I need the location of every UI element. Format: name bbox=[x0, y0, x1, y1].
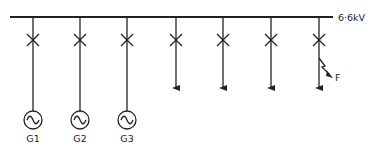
feeder-g2: G2 bbox=[71, 17, 89, 144]
generator-icon bbox=[24, 111, 42, 129]
fault-label: F bbox=[335, 72, 340, 83]
generator-icon bbox=[118, 111, 136, 129]
feeder-load-1 bbox=[170, 17, 182, 88]
generator-label: G2 bbox=[73, 133, 86, 144]
single-line-diagram: 6·6kV G1 G2 bbox=[0, 0, 378, 150]
feeder-g3: G3 bbox=[118, 17, 136, 144]
generator-icon bbox=[71, 111, 89, 129]
feeder-load-2 bbox=[217, 17, 229, 88]
feeder-load-4-faulted: F bbox=[313, 17, 340, 88]
bus-voltage-label: 6·6kV bbox=[338, 12, 366, 23]
generator-label: G1 bbox=[26, 133, 39, 144]
feeder-load-3 bbox=[265, 17, 277, 88]
feeder-g1: G1 bbox=[24, 17, 42, 144]
generator-label: G3 bbox=[120, 133, 133, 144]
fault-lightning-icon bbox=[319, 58, 333, 78]
